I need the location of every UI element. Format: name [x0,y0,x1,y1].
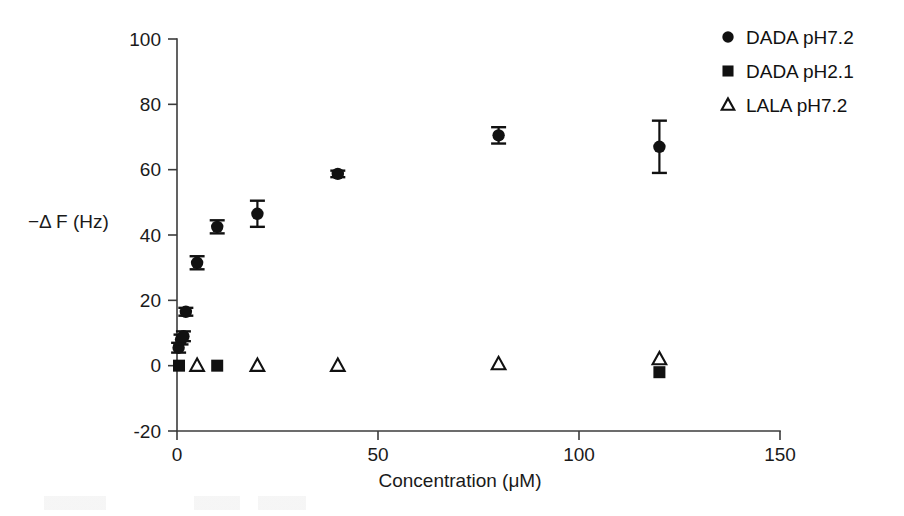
marker-square-point [173,360,185,372]
marker-circle-point [191,257,203,269]
marker-triangle-legend [722,98,735,109]
data-series-group [171,121,667,379]
scatter-plot: -20020406080100 050100150 −Δ F (Hz) Conc… [0,0,904,516]
x-axis-title: Concentration (μM) [378,470,541,491]
legend-item-lala-ph7-2: LALA pH7.2 [722,95,848,116]
x-tick-label: 150 [764,444,796,465]
legend-label: DADA pH7.2 [746,27,854,48]
y-tick-label: 60 [140,159,161,180]
marker-circle-point [492,129,504,141]
legend-item-dada-ph7-2: DADA pH7.2 [722,27,853,48]
y-tick-label: 20 [140,290,161,311]
marker-triangle-point [653,352,667,364]
series-dada-ph2-1 [173,360,665,379]
y-tick-label: 40 [140,225,161,246]
legend-label: DADA pH2.1 [746,61,854,82]
figure-panel: -20020406080100 050100150 −Δ F (Hz) Conc… [0,0,904,516]
y-tick-label: 80 [140,94,161,115]
y-tick-group: -20020406080100 [129,29,177,442]
marker-circle-point [180,306,192,318]
y-tick-label: -20 [134,421,161,442]
chart-legend: DADA pH7.2DADA pH2.1LALA pH7.2 [722,27,854,116]
x-tick-label: 100 [563,444,595,465]
marker-circle-legend [722,31,733,42]
marker-triangle-point [331,358,345,370]
marker-square-point [211,360,223,372]
marker-triangle-point [492,357,506,369]
y-tick-label: 0 [150,355,161,376]
series-lala-ph7-2 [190,352,666,371]
marker-triangle-point [251,358,265,370]
marker-circle-point [332,168,344,180]
y-tick-label: 100 [129,29,161,50]
marker-circle-point [177,330,189,342]
marker-circle-point [653,141,665,153]
x-tick-label: 50 [367,444,388,465]
x-tick-label: 0 [172,444,183,465]
x-tick-group: 050100150 [172,431,796,465]
marker-square-legend [722,65,733,76]
series-dada-ph7-2 [171,121,667,354]
x-axis: 050100150 [172,431,796,465]
marker-triangle-point [190,358,204,370]
legend-item-dada-ph2-1: DADA pH2.1 [722,61,853,82]
marker-circle-point [251,208,263,220]
marker-square-point [653,366,665,378]
caption-remnant [44,496,344,510]
marker-circle-point [211,221,223,233]
y-axis-title: −Δ F (Hz) [28,211,109,232]
y-axis: -20020406080100 [129,29,177,442]
legend-label: LALA pH7.2 [746,95,847,116]
